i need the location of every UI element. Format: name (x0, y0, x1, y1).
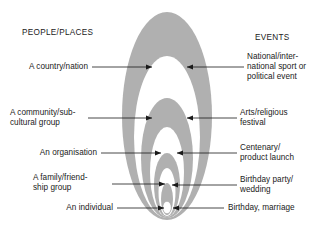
label-individual: An individual (0, 203, 113, 213)
label-national-event-line2: national sport or (247, 62, 306, 72)
label-centenary-line1: Centenary/ (240, 143, 280, 153)
heading-events: EVENTS (255, 33, 290, 43)
label-family-group-line1: A family/friend- (33, 173, 87, 183)
label-family-group-line2: ship group (33, 183, 71, 193)
label-organisation: An organisation (0, 148, 97, 158)
diagram-page: PEOPLE/PLACES EVENTS A country/nation Na… (0, 0, 329, 226)
label-community-line2: cultural group (10, 118, 60, 128)
label-arts-festival-line2: festival (240, 118, 266, 128)
label-community-line1: A community/sub- (10, 108, 75, 118)
ellipse-individual (163, 201, 171, 213)
label-country-nation: A country/nation (0, 62, 88, 72)
label-national-event-line3: political event (247, 72, 297, 82)
label-centenary-line2: product launch (240, 153, 294, 163)
label-arts-festival-line1: Arts/religious (240, 108, 288, 118)
label-birthday-marriage: Birthday, marriage (228, 203, 295, 213)
label-birthday-party-line2: wedding (240, 185, 271, 195)
label-birthday-party-line1: Birthday party/ (240, 175, 293, 185)
label-national-event-line1: National/inter- (247, 52, 298, 62)
heading-people-places: PEOPLE/PLACES (22, 28, 93, 38)
